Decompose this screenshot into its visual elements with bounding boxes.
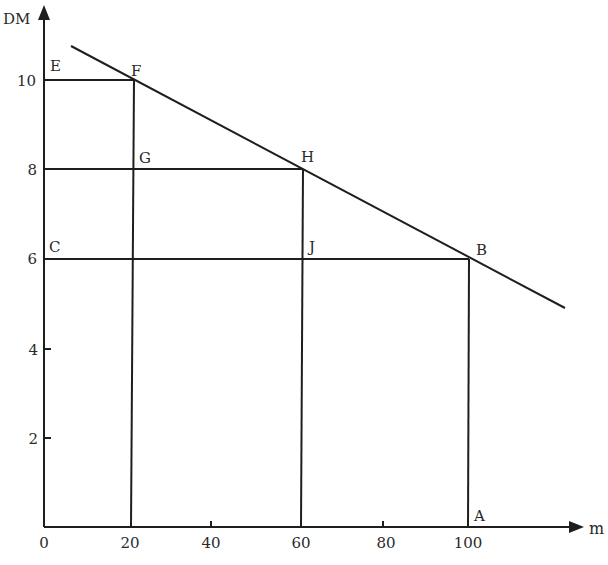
chart-canvas: DM m 10 8 6 4 2 0 20 40 60 80 100 E F G … (0, 0, 608, 565)
x-tick-label-20: 20 (120, 534, 139, 552)
x-axis-arrow-icon (569, 521, 584, 533)
x-tick-label-60: 60 (291, 534, 310, 552)
line-B-A (468, 259, 469, 527)
x-tick-label-40: 40 (201, 534, 220, 552)
y-tick-label-6: 6 (27, 250, 37, 268)
point-label-H: H (301, 148, 314, 166)
y-tick-label-8: 8 (27, 161, 37, 179)
demand-line (71, 46, 565, 308)
point-label-G: G (139, 149, 151, 167)
y-axis-arrow-icon (38, 5, 50, 20)
x-axis-label: m (589, 519, 604, 538)
y-tick-label-2: 2 (28, 430, 38, 448)
y-tick-label-4: 4 (28, 341, 38, 359)
point-label-B: B (476, 241, 487, 259)
line-F-20 (131, 80, 134, 527)
line-H-60 (301, 169, 303, 527)
point-label-E: E (50, 57, 61, 75)
y-tick-label-10: 10 (17, 72, 36, 90)
point-label-C: C (49, 238, 60, 256)
point-label-F: F (131, 62, 141, 80)
x-tick-label-100: 100 (454, 534, 483, 552)
point-label-J: J (307, 238, 315, 256)
y-axis-label: DM (3, 10, 30, 28)
x-tick-label-80: 80 (376, 534, 395, 552)
point-label-A: A (473, 507, 485, 525)
x-tick-label-0: 0 (39, 534, 49, 552)
